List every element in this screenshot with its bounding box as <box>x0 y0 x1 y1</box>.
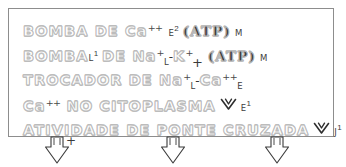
row-2-plus-below: + <box>192 55 203 70</box>
row-bomba-ca: BOMBA DE Ca ++ E2 (ATP) M <box>23 23 243 39</box>
row-3-charge-2: ++ <box>222 71 237 82</box>
row-1-enzyme-label: M <box>235 28 243 38</box>
row-1-label-sup: 2 <box>174 24 178 33</box>
row-4-main-text-2: NO CITOPLASMA <box>67 98 216 114</box>
double-chevron-down-icon-2 <box>313 122 330 137</box>
diagram-canvas: BOMBA DE Ca ++ E2 (ATP) M BOMBA L1 DE Na… <box>0 0 346 167</box>
row-2-charge: + <box>157 47 164 58</box>
row-1-main-text: BOMBA DE Ca <box>23 23 148 39</box>
row-3-sub: L <box>191 81 196 91</box>
row-1-charge: ++ <box>148 22 163 33</box>
row-ca-citoplasma: Ca ++ NO CITOPLASMA E1 <box>23 96 251 114</box>
row-trocador-na-ca: TROCADOR DE Na +L - Ca ++E <box>23 72 243 88</box>
row-1-enzyme: (ATP) <box>183 23 231 39</box>
row-2-main-text-2: DE Na <box>102 48 156 64</box>
row-2-enzyme-label: M <box>260 53 268 63</box>
row-5-chevron-label-sup: 1 <box>337 123 341 132</box>
double-chevron-down-icon <box>220 98 237 113</box>
row-3-main-text: TROCADOR DE Na <box>23 72 183 88</box>
row-2-main-text: BOMBA <box>23 48 89 64</box>
row-bomba-na-k: BOMBA L1 DE Na +L - K ++ (ATP) M <box>23 48 268 64</box>
row-3-sub-2: E <box>237 81 242 91</box>
row-2-inline-label-sup: 1 <box>94 49 98 58</box>
row-2-sub: L <box>164 57 169 67</box>
diagram-frame: BOMBA DE Ca ++ E2 (ATP) M BOMBA L1 DE Na… <box>8 8 334 137</box>
bottom-arrow-left-annotation: + <box>66 134 76 148</box>
bottom-arrow-center-icon <box>158 136 188 165</box>
row-2-main-text-3: K <box>173 48 185 64</box>
row-4-main-text: Ca <box>23 98 46 114</box>
row-3-charge: + <box>183 71 190 82</box>
bottom-arrow-right-icon <box>262 136 292 165</box>
row-4-charge: ++ <box>46 97 61 108</box>
row-2-enzyme: (ATP) <box>208 48 256 64</box>
row-4-chevron-label-sup: 1 <box>246 99 250 108</box>
row-3-main-text-2: Ca <box>200 72 223 88</box>
